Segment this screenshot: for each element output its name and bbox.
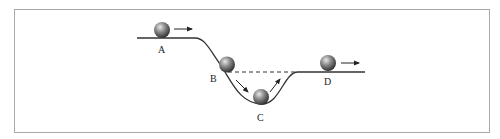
ball-icon	[154, 22, 170, 38]
label-a: A	[158, 44, 166, 55]
label-c: C	[257, 112, 264, 123]
diagram-frame	[15, 10, 490, 133]
ball-icon	[219, 57, 235, 73]
ball-icon	[253, 89, 269, 105]
arrow-down-slope-icon	[236, 80, 248, 92]
ball-d: D	[320, 55, 359, 87]
label-b: B	[210, 73, 217, 84]
label-d: D	[324, 76, 331, 87]
track-curve	[137, 38, 365, 104]
ball-b: B	[210, 57, 248, 93]
diagram-canvas: A B C D	[0, 0, 500, 139]
ball-icon	[320, 55, 336, 71]
ball-c: C	[253, 79, 280, 123]
arrow-up-slope-icon	[270, 79, 280, 92]
